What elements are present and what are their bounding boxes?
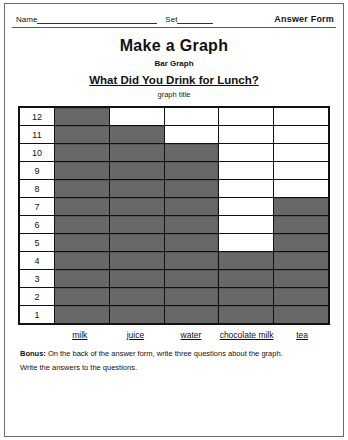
x-axis-label: milk (52, 330, 108, 340)
answer-form-label: Answer Form (274, 14, 334, 24)
graph-row: 10 (20, 144, 329, 162)
graph-cell[interactable] (109, 288, 164, 306)
y-axis-tick: 4 (20, 252, 55, 270)
name-label: Name (16, 15, 37, 24)
graph-cell[interactable] (219, 126, 274, 144)
bonus-instructions: Bonus: On the back of the answer form, w… (20, 349, 328, 374)
graph-row: 7 (20, 198, 329, 216)
graph-cell[interactable] (55, 198, 110, 216)
graph-cell[interactable] (164, 162, 219, 180)
graph-cell[interactable] (164, 234, 219, 252)
graph-cell[interactable] (164, 198, 219, 216)
graph-cell[interactable] (109, 180, 164, 198)
graph-cell[interactable] (274, 108, 329, 126)
graph-cell[interactable] (164, 180, 219, 198)
graph-cell[interactable] (219, 288, 274, 306)
graph-cell[interactable] (219, 216, 274, 234)
y-axis-tick: 5 (20, 234, 55, 252)
graph-cell[interactable] (274, 288, 329, 306)
name-input-line[interactable] (37, 15, 157, 24)
graph-cell[interactable] (274, 180, 329, 198)
graph-row: 5 (20, 234, 329, 252)
graph-cell[interactable] (164, 144, 219, 162)
graph-cell[interactable] (55, 252, 110, 270)
graph-cell[interactable] (55, 234, 110, 252)
y-axis-tick: 3 (20, 270, 55, 288)
graph-cell[interactable] (274, 270, 329, 288)
y-axis-tick: 8 (20, 180, 55, 198)
graph-cell[interactable] (55, 108, 110, 126)
graph-cell[interactable] (219, 144, 274, 162)
graph-cell[interactable] (55, 162, 110, 180)
y-axis-tick: 1 (20, 306, 55, 324)
y-axis-tick: 2 (20, 288, 55, 306)
graph-row: 3 (20, 270, 329, 288)
graph-cell[interactable] (274, 234, 329, 252)
worksheet-page: Name Set Answer Form Make a Graph Bar Gr… (0, 0, 348, 440)
graph-cell[interactable] (55, 306, 110, 324)
x-axis-label: chocolate milk (219, 330, 275, 340)
y-axis-tick: 7 (20, 198, 55, 216)
graph-cell[interactable] (109, 108, 164, 126)
x-axis-label: water (163, 330, 219, 340)
graph-question: What Did You Drink for Lunch? (10, 74, 338, 86)
graph-cell[interactable] (274, 198, 329, 216)
graph-table: 121110987654321 (19, 107, 329, 324)
graph-row: 2 (20, 288, 329, 306)
graph-cell[interactable] (109, 162, 164, 180)
graph-cell[interactable] (109, 216, 164, 234)
graph-cell[interactable] (219, 180, 274, 198)
graph-cell[interactable] (164, 270, 219, 288)
form-header: Name Set Answer Form (10, 8, 338, 24)
graph-cell[interactable] (109, 234, 164, 252)
graph-cell[interactable] (274, 126, 329, 144)
graph-cell[interactable] (219, 108, 274, 126)
graph-row: 11 (20, 126, 329, 144)
graph-cell[interactable] (164, 216, 219, 234)
graph-cell[interactable] (55, 144, 110, 162)
graph-cell[interactable] (274, 252, 329, 270)
graph-cell[interactable] (219, 270, 274, 288)
page-subtitle: Bar Graph (10, 59, 338, 68)
graph-cell[interactable] (274, 306, 329, 324)
graph-cell[interactable] (219, 306, 274, 324)
graph-cell[interactable] (109, 144, 164, 162)
bonus-line-2: Write the answers to the questions. (20, 363, 328, 374)
graph-row: 1 (20, 306, 329, 324)
graph-cell[interactable] (55, 216, 110, 234)
bar-graph-grid: 121110987654321 (18, 106, 330, 325)
graph-cell[interactable] (109, 252, 164, 270)
page-title: Make a Graph (10, 37, 338, 55)
header-divider (12, 27, 336, 28)
graph-cell[interactable] (164, 108, 219, 126)
graph-cell[interactable] (219, 234, 274, 252)
graph-row: 4 (20, 252, 329, 270)
graph-cell[interactable] (219, 252, 274, 270)
graph-cell[interactable] (109, 198, 164, 216)
y-axis-tick: 10 (20, 144, 55, 162)
graph-cell[interactable] (164, 126, 219, 144)
bonus-label: Bonus: (20, 349, 46, 358)
set-label: Set (165, 15, 177, 24)
graph-cell[interactable] (219, 162, 274, 180)
graph-cell[interactable] (55, 126, 110, 144)
graph-cell[interactable] (164, 252, 219, 270)
graph-cell[interactable] (274, 162, 329, 180)
graph-cell[interactable] (164, 288, 219, 306)
graph-row: 6 (20, 216, 329, 234)
graph-row: 8 (20, 180, 329, 198)
graph-cell[interactable] (55, 288, 110, 306)
graph-cell[interactable] (109, 270, 164, 288)
x-axis-label: juice (108, 330, 164, 340)
graph-cell[interactable] (55, 270, 110, 288)
bonus-line-1: On the back of the answer form, write th… (46, 349, 283, 358)
graph-cell[interactable] (274, 216, 329, 234)
graph-cell[interactable] (274, 144, 329, 162)
set-input-line[interactable] (177, 15, 213, 24)
graph-cell[interactable] (109, 126, 164, 144)
graph-cell[interactable] (109, 306, 164, 324)
x-axis-label: tea (274, 330, 330, 340)
graph-cell[interactable] (219, 198, 274, 216)
graph-cell[interactable] (164, 306, 219, 324)
graph-cell[interactable] (55, 180, 110, 198)
